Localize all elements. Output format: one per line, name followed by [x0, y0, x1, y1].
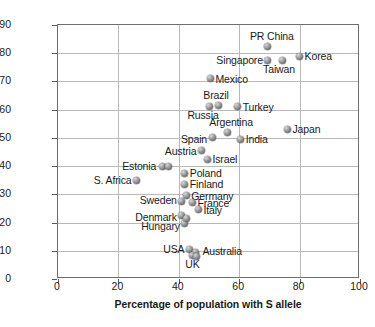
data-point-label: Brazil: [203, 90, 228, 101]
data-point-label: Japan: [293, 124, 321, 135]
data-point-label: Hungary: [141, 220, 180, 231]
data-point-label: Singapore: [216, 55, 263, 66]
data-point-label: Taiwan: [263, 64, 295, 75]
data-point-marker: [165, 163, 172, 170]
data-point-label: UK: [185, 259, 199, 270]
data-point-marker: [209, 134, 216, 141]
data-point-marker: [264, 43, 271, 50]
y-axis-tick-label: 80: [0, 47, 11, 57]
plot-area: PR ChinaSingaporeTaiwanKoreaMexicoBrazil…: [57, 24, 359, 278]
data-point-label: Austria: [165, 145, 197, 156]
data-point-label: Turkey: [243, 101, 274, 112]
data-point-marker: [181, 170, 188, 177]
y-axis-tick-label: 50: [0, 132, 11, 142]
data-point-marker: [198, 147, 205, 154]
data-point-label: Sweden: [140, 195, 177, 206]
y-axis-tick-label: 0: [0, 273, 11, 283]
gridline-vertical: [300, 25, 301, 277]
data-point-label: Argentina: [209, 117, 253, 128]
data-point-label: Israel: [212, 154, 237, 165]
y-axis-tick: [52, 166, 57, 167]
x-axis-tick-label: 20: [102, 281, 132, 291]
x-axis-tick-label: 60: [223, 281, 253, 291]
y-axis-tick: [52, 25, 57, 26]
gridline-vertical: [118, 25, 119, 277]
data-point-marker: [195, 206, 202, 213]
data-point-marker: [133, 177, 140, 184]
gridline-horizontal: [58, 223, 358, 224]
data-point-label: Estonia: [122, 161, 156, 172]
y-axis-tick: [52, 138, 57, 139]
data-point-marker: [178, 198, 185, 205]
y-axis-tick-label: 40: [0, 160, 11, 170]
data-point-label: S. Africa: [94, 175, 132, 186]
y-axis-tick-label: 20: [0, 217, 11, 227]
data-point-label: Australia: [202, 246, 242, 257]
y-axis-tick: [52, 223, 57, 224]
x-axis-tick-label: 100: [344, 281, 374, 291]
y-axis-tick-label: 60: [0, 104, 11, 114]
data-point-marker: [224, 129, 231, 136]
data-point-label: Italy: [203, 204, 222, 215]
data-point-label: Korea: [305, 51, 332, 62]
data-point-marker: [189, 199, 196, 206]
y-axis-tick-label: 10: [0, 245, 11, 255]
gridline-horizontal: [58, 138, 358, 139]
data-point-marker: [183, 215, 190, 222]
y-axis-tick: [52, 251, 57, 252]
scatter-plot-figure: Individualism–collectivism Percentage of…: [0, 0, 375, 327]
data-point-label: Mexico: [216, 73, 248, 84]
y-axis-tick-label: 30: [0, 188, 11, 198]
y-axis-tick: [52, 53, 57, 54]
data-point-label: USA: [163, 244, 184, 255]
x-axis-tick-label: 0: [42, 281, 72, 291]
x-axis-title: Percentage of population with S allele: [57, 298, 359, 310]
y-axis-tick-label: 70: [0, 75, 11, 85]
y-axis-tick: [52, 81, 57, 82]
y-axis-tick: [52, 110, 57, 111]
x-axis-tick-label: 40: [163, 281, 193, 291]
data-point-label: India: [246, 134, 268, 145]
y-axis-tick-label: 90: [0, 19, 11, 29]
data-point-marker: [204, 156, 211, 163]
data-point-marker: [296, 53, 303, 60]
data-point-label: Spain: [181, 133, 207, 144]
data-point-marker: [181, 181, 188, 188]
y-axis-tick: [52, 194, 57, 195]
data-point-marker: [237, 136, 244, 143]
x-axis-tick-label: 80: [284, 281, 314, 291]
data-point-marker: [284, 126, 291, 133]
data-point-label: PR China: [250, 31, 294, 42]
